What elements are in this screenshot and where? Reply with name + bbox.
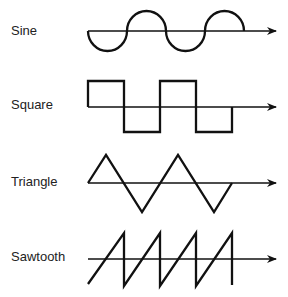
triangle-wave: [88, 155, 276, 212]
square-wave: [88, 81, 276, 132]
sawtooth-wave: [88, 233, 276, 286]
sine-wave: [88, 11, 276, 51]
waveform-diagram: [0, 0, 288, 297]
